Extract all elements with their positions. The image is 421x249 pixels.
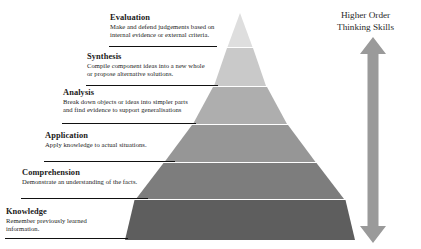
level-description-analysis: Break down objects or ideas into simpler… bbox=[63, 98, 191, 113]
level-title-knowledge: Knowledge bbox=[6, 207, 118, 217]
level-description-comprehension: Demonstrate an understanding of the fact… bbox=[22, 178, 146, 186]
level-label-application: Application Apply knowledge to actual si… bbox=[45, 131, 175, 149]
leader-line-knowledge bbox=[5, 238, 128, 239]
pyramid-band-comprehension bbox=[136, 163, 344, 199]
level-label-synthesis: Synthesis Compile component ideas into a… bbox=[87, 52, 209, 77]
pyramid-band-evaluation bbox=[228, 13, 253, 47]
level-label-knowledge: Knowledge Remember previously learned in… bbox=[6, 207, 118, 232]
level-label-comprehension: Comprehension Demonstrate an understandi… bbox=[22, 168, 146, 186]
level-description-knowledge: Remember previously learned information. bbox=[6, 217, 118, 232]
leader-line-application bbox=[44, 161, 175, 162]
level-label-analysis: Analysis Break down objects or ideas int… bbox=[63, 88, 191, 113]
leader-line-synthesis bbox=[86, 85, 218, 86]
level-title-comprehension: Comprehension bbox=[22, 168, 146, 178]
level-description-synthesis: Compile component ideas into a new whole… bbox=[87, 62, 209, 77]
leader-line-comprehension bbox=[21, 198, 148, 199]
double-headed-arrow-icon bbox=[358, 37, 388, 243]
caption-line-2: Thinking Skills bbox=[313, 22, 418, 34]
higher-order-thinking-skills-caption: Higher Order Thinking Skills bbox=[313, 10, 418, 33]
level-description-application: Apply knowledge to actual situations. bbox=[45, 141, 175, 149]
level-title-synthesis: Synthesis bbox=[87, 52, 209, 62]
blooms-taxonomy-diagram: Evaluation Make and defend judgements ba… bbox=[0, 0, 421, 249]
level-title-analysis: Analysis bbox=[63, 88, 191, 98]
level-title-application: Application bbox=[45, 131, 175, 141]
level-description-evaluation: Make and defend judgements based on inte… bbox=[110, 23, 230, 38]
pyramid-band-analysis bbox=[193, 87, 287, 124]
pyramid-band-application bbox=[165, 125, 316, 162]
pyramid-band-knowledge bbox=[125, 200, 355, 240]
level-label-evaluation: Evaluation Make and defend judgements ba… bbox=[110, 13, 230, 38]
pyramid-band-synthesis bbox=[214, 48, 266, 86]
leader-line-analysis bbox=[62, 123, 196, 124]
caption-line-1: Higher Order bbox=[313, 10, 418, 22]
level-title-evaluation: Evaluation bbox=[110, 13, 230, 23]
leader-line-evaluation bbox=[109, 46, 217, 47]
